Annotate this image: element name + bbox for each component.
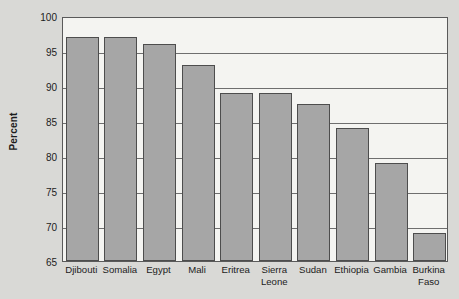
y-axis-title-text: Percent xyxy=(8,112,19,150)
bar xyxy=(336,128,369,261)
y-tick-label: 95 xyxy=(26,47,57,58)
bar xyxy=(259,93,292,261)
y-tick-label: 85 xyxy=(26,117,57,128)
y-tick-label: 100 xyxy=(26,12,57,23)
bar xyxy=(104,37,137,261)
bar xyxy=(182,65,215,261)
bar xyxy=(66,37,99,261)
y-tick-label: 80 xyxy=(26,152,57,163)
y-tick-label: 75 xyxy=(26,187,57,198)
bar xyxy=(413,233,446,261)
bar xyxy=(375,163,408,261)
plot-area xyxy=(62,17,448,262)
bars-layer xyxy=(63,18,447,261)
y-axis-tick-labels: 65707580859095100 xyxy=(26,0,57,299)
bar xyxy=(143,44,176,261)
y-tick-label: 90 xyxy=(26,82,57,93)
bar xyxy=(297,104,330,262)
x-axis-category-labels: DjiboutiSomaliaEgyptMaliEritreaSierraLeo… xyxy=(62,264,448,299)
x-tick-label: BurkinaFaso xyxy=(400,264,458,288)
y-tick-label: 70 xyxy=(26,222,57,233)
y-axis-title: Percent xyxy=(0,0,26,262)
bar xyxy=(220,93,253,261)
bar-chart: Percent 65707580859095100 DjiboutiSomali… xyxy=(0,0,459,299)
